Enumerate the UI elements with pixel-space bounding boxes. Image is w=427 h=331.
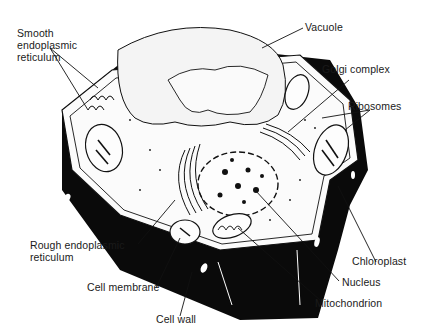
label-smooth-er: Smooth endoplasmic reticulum <box>17 27 77 63</box>
label-vacuole: Vacuole <box>305 21 343 33</box>
plant-cell-diagram: Smooth endoplasmic reticulum Vacuole Gol… <box>0 0 427 331</box>
label-rough-er: Rough endoplasmic reticulum <box>30 239 125 263</box>
label-cell-membrane: Cell membrane <box>87 281 160 293</box>
label-cell-wall: Cell wall <box>156 313 196 325</box>
label-nucleus: Nucleus <box>342 276 381 288</box>
label-ribosomes: Ribosomes <box>348 100 401 112</box>
label-mitochondrion: Mitochondrion <box>315 297 382 309</box>
label-golgi: Golgi complex <box>322 63 390 75</box>
label-chloroplast: Chloroplast <box>352 255 406 267</box>
